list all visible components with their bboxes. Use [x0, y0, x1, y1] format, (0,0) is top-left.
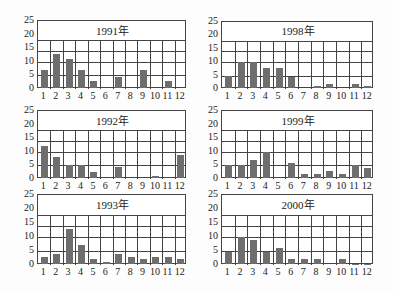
x-tick-label: 1	[221, 91, 234, 101]
gridline-vertical	[113, 215, 114, 265]
x-tick-label: 9	[136, 181, 149, 191]
gridline-vertical	[50, 40, 51, 89]
y-tick-label: 15	[200, 217, 218, 227]
gridline-vertical	[100, 40, 101, 89]
x-tick-label: 4	[74, 91, 87, 101]
x-tick-label: 5	[86, 267, 99, 277]
gridline-vertical	[125, 130, 126, 179]
x-tick-label: 3	[62, 181, 75, 191]
gridline-vertical	[260, 41, 261, 89]
x-tick-label: 10	[148, 267, 161, 277]
gridline-vertical	[273, 130, 274, 179]
bar-month-4	[263, 252, 270, 264]
y-tick-label: 0	[200, 259, 218, 269]
gridline-vertical	[311, 41, 312, 89]
gridline-vertical	[311, 215, 312, 265]
x-tick-label: 12	[360, 91, 373, 101]
bar-month-1	[225, 165, 232, 178]
bar-month-1	[225, 252, 232, 264]
bar-month-8	[314, 259, 321, 264]
y-tick-label: 20	[16, 29, 34, 39]
gridline-vertical	[361, 41, 362, 89]
x-tick-label: 12	[360, 181, 373, 191]
x-tick-label: 7	[111, 91, 124, 101]
bar-month-3	[250, 62, 257, 88]
y-tick-label: 25	[16, 189, 34, 199]
x-tick-label: 7	[297, 91, 310, 101]
y-tick-label: 5	[16, 245, 34, 255]
bar-month-5	[90, 81, 97, 88]
bar-month-2	[53, 254, 60, 264]
bar-month-1	[41, 146, 48, 178]
x-tick-label: 12	[173, 91, 186, 101]
x-tick-label: 7	[111, 181, 124, 191]
x-tick-label: 11	[348, 181, 361, 191]
x-tick-label: 10	[335, 91, 348, 101]
chart-title: 1999年	[222, 115, 374, 127]
bar-month-10	[152, 257, 159, 264]
y-tick-label: 20	[16, 119, 34, 129]
x-tick-label: 6	[284, 181, 297, 191]
bar-month-2	[238, 237, 245, 264]
x-tick-label: 11	[161, 267, 174, 277]
x-tick-label: 3	[246, 181, 259, 191]
bar-month-3	[250, 240, 257, 264]
x-tick-label: 4	[74, 267, 87, 277]
gridline-vertical	[150, 215, 151, 265]
bar-month-4	[263, 68, 270, 88]
chart-title: 1991年	[38, 25, 187, 37]
y-tick-label: 25	[16, 15, 34, 25]
x-tick-label: 8	[310, 267, 323, 277]
x-tick-label: 7	[111, 267, 124, 277]
x-tick-label: 6	[99, 181, 112, 191]
x-tick-label: 4	[74, 181, 87, 191]
x-tick-label: 4	[259, 91, 272, 101]
bar-month-2	[53, 157, 60, 178]
gridline-vertical	[63, 130, 64, 179]
x-tick-label: 1	[221, 267, 234, 277]
gridline-vertical	[235, 41, 236, 89]
y-tick-label: 5	[16, 159, 34, 169]
x-tick-label: 11	[161, 181, 174, 191]
x-tick-label: 11	[348, 267, 361, 277]
bar-month-12	[177, 259, 184, 264]
gridline-vertical	[235, 130, 236, 179]
gridline-vertical	[88, 130, 89, 179]
gridline-vertical	[260, 130, 261, 179]
bar-month-10	[339, 259, 346, 264]
y-tick-label: 25	[16, 105, 34, 115]
x-tick-label: 3	[62, 267, 75, 277]
y-tick-label: 20	[200, 119, 218, 129]
gridline-vertical	[298, 215, 299, 265]
x-tick-label: 3	[246, 267, 259, 277]
bar-month-12	[364, 86, 371, 88]
x-tick-label: 4	[259, 267, 272, 277]
y-tick-label: 15	[16, 42, 34, 52]
y-tick-label: 25	[200, 105, 218, 115]
x-tick-label: 1	[37, 181, 50, 191]
gridline-vertical	[75, 215, 76, 265]
gridline-vertical	[323, 215, 324, 265]
gridline-vertical	[336, 41, 337, 89]
x-tick-label: 2	[234, 267, 247, 277]
gridline-vertical	[260, 215, 261, 265]
gridline-vertical	[349, 130, 350, 179]
bar-month-7	[115, 254, 122, 264]
y-tick-label: 0	[200, 83, 218, 93]
gridline-vertical	[285, 215, 286, 265]
x-tick-label: 11	[161, 91, 174, 101]
x-tick-label: 12	[173, 181, 186, 191]
x-tick-label: 12	[360, 267, 373, 277]
bar-month-12	[364, 168, 371, 178]
gridline-vertical	[175, 40, 176, 89]
bar-month-3	[250, 160, 257, 178]
gridline-vertical	[75, 40, 76, 89]
bar-month-11	[165, 257, 172, 264]
y-tick-label: 10	[16, 231, 34, 241]
y-tick-label: 15	[200, 132, 218, 142]
y-tick-label: 0	[16, 173, 34, 183]
plot-area: 1998年	[221, 21, 373, 88]
plot-area: 1999年	[221, 110, 373, 178]
x-tick-label: 9	[136, 91, 149, 101]
bar-month-7	[115, 167, 122, 178]
